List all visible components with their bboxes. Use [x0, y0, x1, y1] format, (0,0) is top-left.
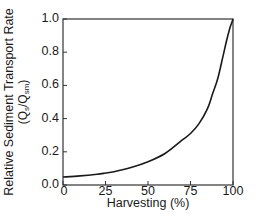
- plot-frame: [63, 19, 233, 185]
- ylabel-subscript: sm: [22, 84, 31, 95]
- y-axis-label-line2: (Qs/Qsm): [16, 8, 34, 196]
- x-axis-label: Harvesting (%): [63, 196, 233, 210]
- y-axis-label-line1: Relative Sediment Transport Rate: [2, 8, 16, 196]
- ylabel-subscript: s: [22, 107, 31, 111]
- ylabel-part: /Q: [16, 94, 30, 107]
- ylabel-part: ): [16, 80, 30, 84]
- ylabel-part: (Q: [16, 111, 30, 124]
- data-line: [63, 19, 233, 177]
